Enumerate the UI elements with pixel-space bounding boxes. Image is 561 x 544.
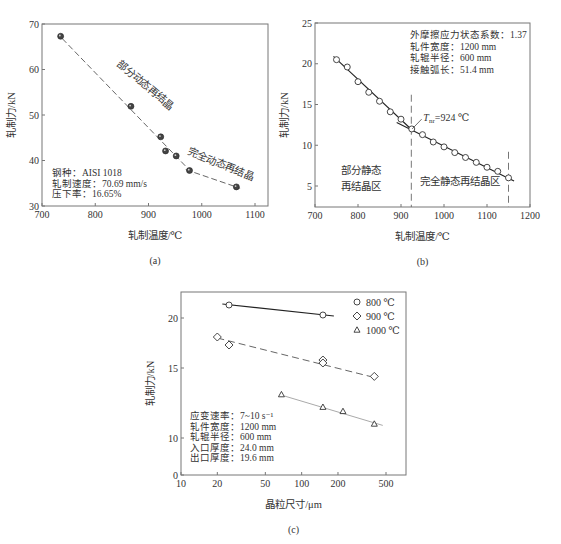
fit-line	[284, 396, 382, 425]
y-tick-label: 15	[168, 363, 178, 374]
data-point-marker	[158, 134, 164, 140]
x-axis-label: 晶粒尺寸/μm	[265, 498, 322, 510]
y-tick-label: 5	[307, 181, 312, 192]
data-point-marker	[344, 64, 350, 70]
data-point-marker	[484, 164, 490, 170]
data-point-marker	[226, 302, 232, 308]
x-tick-label: 100	[294, 478, 309, 489]
region-label: 部分静态	[341, 164, 382, 176]
parameter-text: 轧制速度：70.69 mm/s	[52, 178, 147, 189]
marker-highlight	[174, 154, 176, 156]
x-tick-label: 200	[330, 478, 345, 489]
y-tick-label: 10	[302, 140, 312, 151]
parameter-text: 应变速率：7~10 s⁻¹	[190, 410, 273, 421]
x-tick-label: 50	[260, 478, 270, 489]
tnr-annotation: Tnr=924 ℃	[423, 112, 469, 125]
data-point-marker	[173, 153, 179, 159]
data-point-marker	[334, 57, 340, 63]
data-point-marker	[233, 184, 239, 190]
region-annotation: 部分动态再结晶	[115, 58, 176, 112]
x-tick-label: 20	[212, 478, 222, 489]
marker-highlight	[159, 135, 161, 137]
chart-a-rolling-force-vs-temperature: 700800900100011003040506070轧制温度/℃轧制力/kN(…	[5, 19, 268, 268]
data-point-marker	[463, 154, 469, 160]
data-point-marker	[430, 139, 436, 145]
x-tick-label: 700	[308, 210, 323, 221]
parameter-text: 轧辊半径：600 mm	[410, 52, 492, 63]
region-annotation: 完全动态再结晶	[186, 145, 255, 182]
y-axis-label: 轧制力/kN	[278, 92, 290, 138]
y-tick-label: 70	[29, 19, 39, 30]
data-point-marker	[398, 116, 404, 122]
legend-entry-label: 900 ℃	[366, 311, 395, 322]
chart-b-rolling-force-vs-temperature: 700800900100011001200510152025轧制温度/℃轧制力/…	[278, 18, 540, 269]
y-tick-label: 20	[302, 58, 312, 69]
parameter-text: 轧件宽度：1200 mm	[410, 41, 497, 52]
parameter-text: 接触弧长：51.4 mm	[410, 64, 494, 75]
marker-highlight	[129, 105, 131, 107]
data-point-marker	[377, 98, 383, 104]
chart-c-rolling-force-vs-grain-size: 1020501002005000101520晶粒尺寸/μm轧制力/kN(c)80…	[144, 292, 406, 536]
annotation-leader	[412, 119, 421, 129]
x-axis-label: 轧制温度/℃	[128, 229, 183, 241]
legend: 800 ℃900 ℃1000 ℃	[353, 297, 400, 336]
legend-entry-label: 1000 ℃	[366, 325, 400, 336]
data-point-marker	[354, 299, 360, 305]
parameter-text: 入口厚度：24.0 mm	[190, 442, 274, 453]
fit-line	[217, 338, 375, 378]
data-point-marker	[370, 372, 378, 380]
y-tick-label: 10	[168, 433, 178, 444]
x-tick-label: 900	[394, 210, 409, 221]
data-point-marker	[441, 144, 447, 150]
y-tick-label: 60	[29, 64, 39, 75]
region-label: 再结晶区	[341, 180, 381, 192]
data-point-marker	[340, 408, 346, 413]
data-point-marker	[355, 79, 361, 85]
data-point-marker	[506, 175, 512, 181]
y-tick-label: 0	[173, 470, 178, 481]
y-tick-label: 20	[168, 313, 178, 324]
marker-highlight	[235, 185, 237, 187]
x-tick-label: 800	[351, 210, 366, 221]
y-tick-label: 15	[302, 99, 312, 110]
y-tick-label: 50	[29, 110, 39, 121]
data-point-marker	[213, 333, 221, 341]
data-point-marker	[225, 341, 233, 349]
data-point-marker	[163, 148, 169, 154]
x-tick-label: 1100	[477, 210, 497, 221]
y-tick-label: 40	[29, 155, 39, 166]
y-tick-label: 30	[29, 201, 39, 212]
y-tick-label: 25	[302, 18, 312, 29]
x-tick-label: 1200	[520, 210, 540, 221]
data-point-marker	[320, 312, 326, 318]
parameter-text: 钢种：AISI 1018	[52, 167, 122, 178]
data-point-marker	[128, 103, 134, 109]
data-point-marker	[353, 312, 361, 320]
data-point-marker	[473, 159, 479, 165]
x-tick-label: 1100	[245, 209, 265, 220]
data-point-marker	[495, 168, 501, 174]
data-point-marker	[387, 109, 393, 115]
region-label: 完全静态再结晶区	[420, 175, 500, 187]
data-point-marker	[354, 327, 360, 332]
parameter-text: 轧件宽度：1200 mm	[190, 421, 277, 432]
figure-canvas: 700800900100011003040506070轧制温度/℃轧制力/kN(…	[0, 0, 561, 544]
marker-highlight	[188, 169, 190, 171]
y-axis-label: 轧制力/kN	[5, 92, 17, 138]
data-point-marker	[366, 89, 372, 95]
x-axis-label: 轧制温度/℃	[395, 230, 450, 242]
data-point-marker	[278, 391, 284, 396]
marker-highlight	[164, 149, 166, 151]
parameter-text: 轧辊半径：600 mm	[190, 431, 272, 442]
x-tick-label: 1000	[434, 210, 454, 221]
x-tick-label: 900	[141, 209, 156, 220]
marker-highlight	[59, 35, 61, 37]
parameter-text: 出口厚度：19.6 mm	[190, 452, 274, 463]
parameter-text: 外摩擦应力状态系数：1.37	[410, 29, 527, 40]
data-point-marker	[187, 168, 193, 174]
parameter-text: 压下率：16.65%	[52, 188, 121, 199]
x-tick-label: 1000	[192, 209, 212, 220]
chart-caption: (a)	[149, 255, 160, 267]
fit-line	[222, 304, 334, 316]
data-point-marker	[58, 33, 64, 39]
